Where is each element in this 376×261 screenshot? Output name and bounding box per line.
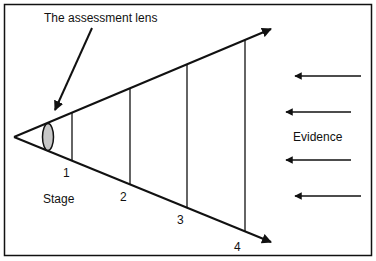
stage-label: Stage [43, 192, 75, 206]
assessment-lens-ellipse [43, 124, 54, 151]
stage-number-4: 4 [234, 240, 241, 254]
assessment-lens-diagram: The assessment lens 1 Stage 2 3 4 Eviden… [0, 0, 376, 261]
stage-number-3: 3 [177, 213, 184, 227]
evidence-label: Evidence [293, 130, 343, 144]
lens-title-label: The assessment lens [44, 11, 157, 25]
stage-number-1: 1 [63, 166, 70, 180]
stage-number-2: 2 [120, 190, 127, 204]
